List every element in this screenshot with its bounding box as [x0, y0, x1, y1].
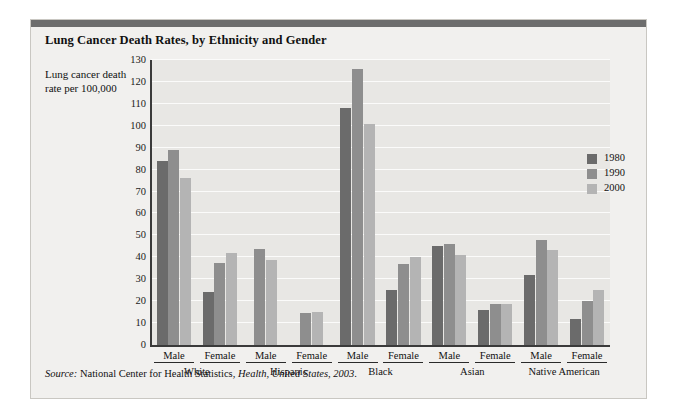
- bar: [300, 313, 311, 345]
- bar: [478, 310, 489, 345]
- legend-swatch: [587, 169, 597, 179]
- x-axis-gender-label: Male: [521, 350, 561, 363]
- bar: [214, 263, 225, 345]
- legend-swatch: [587, 154, 597, 164]
- bar: [364, 124, 375, 345]
- x-axis-gender-label: Female: [475, 350, 515, 363]
- source-note: Source: National Center for Health Stati…: [45, 368, 357, 379]
- y-axis-tick-label: 110: [131, 99, 146, 110]
- x-axis-gender-label: Female: [383, 350, 423, 363]
- bar: [312, 312, 323, 345]
- bar: [168, 150, 179, 345]
- bar: [266, 260, 277, 346]
- y-axis-line: [150, 60, 152, 345]
- bar: [501, 304, 512, 345]
- legend-label: 1990: [604, 168, 625, 179]
- bar: [203, 292, 214, 345]
- bar: [432, 246, 443, 345]
- chart-title: Lung Cancer Death Rates, by Ethnicity an…: [45, 33, 327, 48]
- bar: [490, 304, 501, 345]
- y-axis-tick-label: 80: [136, 164, 147, 175]
- bar: [254, 249, 265, 345]
- x-axis-gender-label: Female: [292, 350, 332, 363]
- gridline: [151, 147, 610, 148]
- gridline: [151, 212, 610, 213]
- bar: [226, 253, 237, 345]
- y-axis-tick-label: 70: [136, 186, 147, 197]
- y-axis-tick-label: 40: [136, 252, 147, 263]
- y-axis-tick-label: 90: [136, 142, 147, 153]
- x-axis-ethnicity-label: Native American: [509, 366, 619, 377]
- x-axis-gender-label: Male: [338, 350, 378, 363]
- x-axis-line: [150, 345, 610, 347]
- legend-item: 1980: [587, 151, 625, 166]
- source-prefix: Source:: [45, 368, 77, 379]
- bar: [536, 240, 547, 345]
- bar: [352, 69, 363, 345]
- plot-region: 0102030405060708090100110120130: [151, 60, 610, 345]
- bar: [570, 319, 581, 345]
- gridline: [151, 103, 610, 104]
- y-axis-tick-label: 10: [136, 318, 147, 329]
- bar: [386, 290, 397, 345]
- legend-item: 2000: [587, 181, 625, 196]
- x-axis-gender-label: Female: [200, 350, 240, 363]
- bar: [593, 290, 604, 345]
- y-axis-tick-label: 0: [141, 340, 146, 351]
- x-axis-gender-label: Male: [154, 350, 194, 363]
- source-publication: Health, United States, 2003: [238, 368, 354, 379]
- legend-item: 1990: [587, 166, 625, 181]
- x-axis-gender-label: Male: [246, 350, 286, 363]
- bar: [582, 301, 593, 345]
- y-axis-tick-label: 50: [136, 230, 147, 241]
- gridline: [151, 191, 610, 192]
- y-axis-tick-label: 20: [136, 296, 147, 307]
- gridline: [151, 169, 610, 170]
- figure-panel: Lung Cancer Death Rates, by Ethnicity an…: [30, 19, 647, 399]
- y-axis-tick-label: 130: [130, 55, 146, 66]
- y-axis-tick-label: 30: [136, 274, 147, 285]
- gridline: [151, 234, 610, 235]
- bar: [455, 255, 466, 345]
- gridline: [151, 81, 610, 82]
- source-suffix: .: [354, 368, 357, 379]
- bar: [157, 161, 168, 345]
- legend: 198019902000: [587, 151, 625, 196]
- legend-label: 1980: [604, 153, 625, 164]
- bar: [180, 178, 191, 345]
- top-rule: [31, 20, 646, 27]
- legend-swatch: [587, 184, 597, 194]
- bar: [398, 264, 409, 345]
- x-axis-gender-label: Female: [567, 350, 607, 363]
- y-axis-tick-label: 60: [136, 208, 147, 219]
- y-axis-tick-label: 100: [130, 121, 146, 132]
- bar: [444, 244, 455, 345]
- bar: [524, 275, 535, 345]
- legend-label: 2000: [604, 183, 625, 194]
- y-axis-tick-label: 120: [130, 77, 146, 88]
- bar: [547, 250, 558, 345]
- bar: [340, 108, 351, 345]
- x-axis-gender-label: Male: [429, 350, 469, 363]
- bar: [410, 257, 421, 345]
- gridline: [151, 59, 610, 60]
- gridline: [151, 125, 610, 126]
- source-agency: National Center for Health Statistics,: [77, 368, 238, 379]
